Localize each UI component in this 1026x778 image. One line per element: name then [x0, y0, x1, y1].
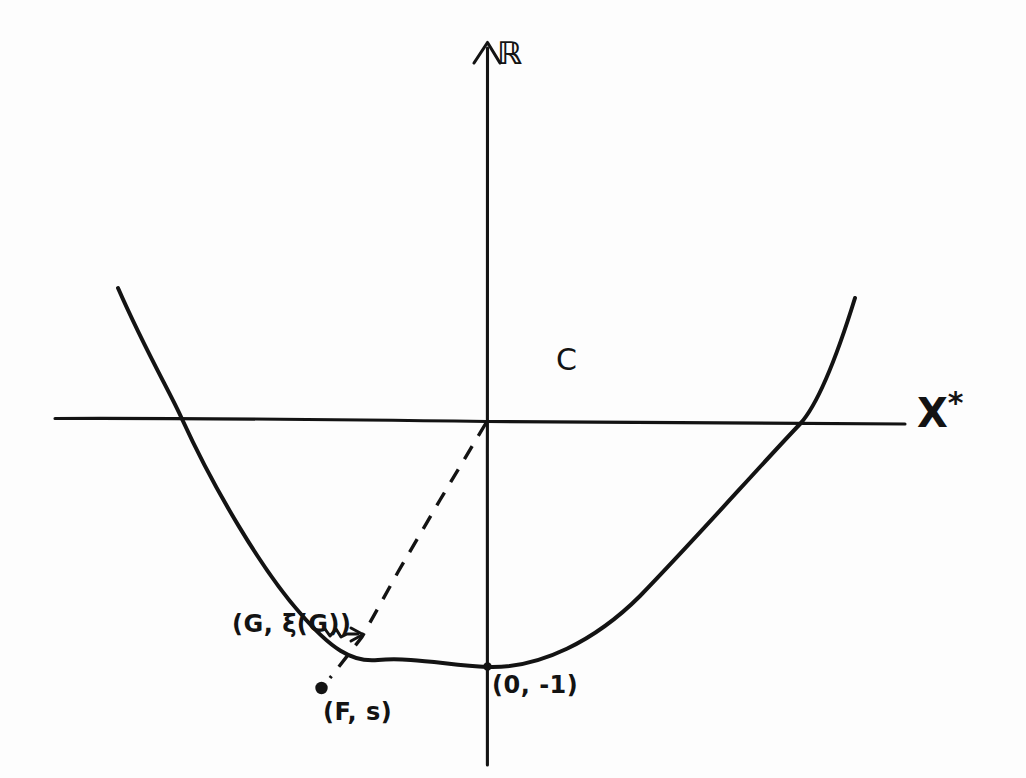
point-f-label: (F, s) [323, 700, 392, 724]
point-vertex-marker [483, 662, 491, 670]
x-axis-label-superscript: * [948, 385, 964, 420]
figure-canvas: ℝ X* C (G, ξ(G)) (F, s) (0, -1) [0, 0, 1026, 778]
point-g-label: (G, ξ(G)) [232, 612, 351, 636]
curve-label-c: C [556, 345, 577, 375]
x-axis-label: X* [917, 393, 964, 433]
y-axis-label: ℝ [497, 38, 521, 69]
x-axis-label-text: X [917, 390, 948, 436]
diagram-svg [0, 0, 1026, 778]
point-f-marker [315, 682, 327, 694]
vertex-label: (0, -1) [492, 673, 578, 697]
